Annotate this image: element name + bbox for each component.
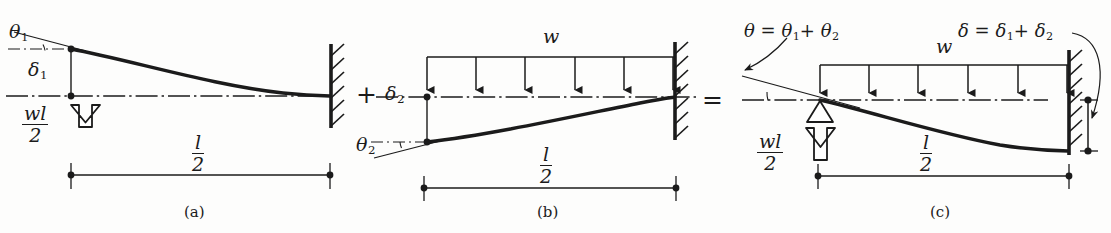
panel-c-reaction-arrow [806,128,835,160]
panel-a-beam-curve [71,49,330,96]
panel-b-distributed-load-label: w [543,27,559,46]
panel-c-theta-leader [745,38,787,70]
panel-c-caption: (c) [930,205,950,220]
panel-b-free-end-node [424,139,431,146]
panel-b-load-arrows [427,57,673,90]
panel-a-fixed-support [331,44,344,128]
panel-a-free-end-node [68,46,75,53]
panel-a-baseline-node [68,93,75,100]
panel-c-fixed-support [1069,50,1082,155]
equals-operator: = [702,87,723,112]
panel-b-graphics [371,42,700,201]
panel-c-delta-equation: δ = δ1+ δ2 [958,22,1053,42]
panel-c-distributed-load-label: w [936,37,952,56]
panel-c-theta-equation: θ = θ1+ θ2 [744,22,839,42]
panel-a-reaction-arrow [71,105,100,127]
figure-canvas: θ1 δ1 wl2 l2 (a) + w δ2 θ2 l2 (b) = θ = … [0,0,1111,233]
panel-c-reaction-label: wl2 [757,132,783,174]
panel-c-beam-curve [820,100,1068,151]
panel-b-theta2-arc [400,142,402,148]
panel-c-pin-support [807,101,833,122]
panel-a-span-label: l2 [192,133,204,175]
panel-c-theta-arc [767,92,768,101]
panel-b-span-label: l2 [540,145,552,187]
plus-operator: + [356,82,377,107]
panel-b-delta2-label: δ2 [385,84,404,106]
panel-c-span-label: l2 [920,133,932,175]
panel-b-caption: (b) [537,205,558,220]
panel-b-baseline-node [424,94,431,101]
panel-b-beam-curve [427,97,674,142]
panel-a-delta1-label: δ1 [28,60,47,82]
panel-b-theta2-label: θ2 [356,135,375,157]
panel-a-theta1-arc [43,45,45,51]
panel-c-span-dimension [815,164,1073,189]
panel-c-delta-leader [1072,33,1100,118]
panel-b-fixed-support [675,42,688,140]
panel-a-theta1-label: θ1 [9,22,28,44]
panel-a-reaction-label: wl2 [22,104,48,146]
panel-c-load-arrows [820,65,1067,93]
panel-c-tangent-line [742,76,860,108]
panel-a-caption: (a) [184,205,205,220]
panel-a-graphics [6,32,344,189]
